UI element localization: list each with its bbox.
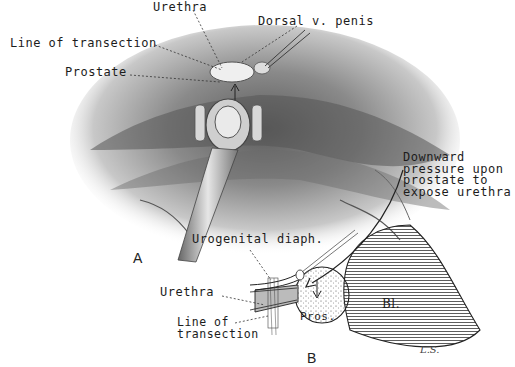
- panel-letter-a: A: [133, 250, 142, 266]
- medical-illustration: Urethra Dorsal v. penis Line of transect…: [0, 0, 515, 367]
- label-urogenital-diaphragm: Urogenital diaph.: [192, 233, 323, 245]
- label-line-of-transection-a: Line of transection: [10, 37, 157, 49]
- label-line-of-transection-b: Line of transection: [177, 316, 259, 340]
- artist-signature: L.S.: [420, 344, 440, 355]
- label-prostate: Prostate: [65, 66, 127, 78]
- label-prostate-abbrev: Pros.: [300, 311, 336, 322]
- label-urethra-b: Urethra: [160, 286, 214, 298]
- label-dorsal-vein: Dorsal v. penis: [258, 15, 374, 27]
- panel-letter-b: B: [307, 350, 316, 366]
- label-bladder-abbrev: Bl.: [382, 298, 400, 310]
- label-urethra-a: Urethra: [153, 1, 207, 13]
- label-pressure-annotation: Downward pressure upon prostate to expos…: [403, 152, 511, 198]
